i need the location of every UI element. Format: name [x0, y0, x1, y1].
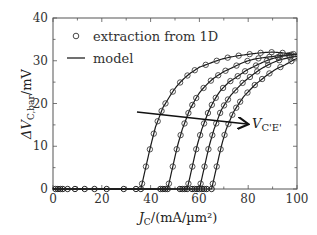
vce-label: VC'E'	[252, 116, 282, 133]
legend-label-model: model	[93, 51, 133, 66]
xtick-40: 40	[143, 192, 158, 206]
y-axis-title-unit: /mV	[19, 69, 34, 96]
x-axis-title-unit: /(mA/µm²)	[151, 210, 218, 225]
y-axis-title-main: ΔV	[19, 118, 34, 139]
xtick-80: 80	[240, 192, 255, 206]
ytick-0: 0	[40, 182, 48, 196]
legend: extraction from 1D model	[67, 29, 218, 66]
x-axis-title: JC/(mA/µm²)	[136, 210, 218, 227]
y-axis-title-sub: C,bar	[26, 95, 36, 121]
ytick-30: 30	[33, 54, 48, 68]
svg-text:ΔVC,bar/mV: ΔVC,bar/mV	[19, 69, 36, 140]
y-axis-title: ΔVC,bar/mV	[19, 69, 36, 140]
legend-circle-icon	[73, 33, 79, 39]
xtick-0: 0	[49, 192, 57, 206]
ytick-40: 40	[33, 11, 48, 25]
ytick-10: 10	[33, 139, 48, 153]
legend-label-extraction: extraction from 1D	[93, 29, 218, 44]
xtick-60: 60	[191, 192, 206, 206]
xtick-100: 100	[286, 192, 309, 206]
xtick-20: 20	[94, 192, 109, 206]
vce-label-sub: C'E'	[261, 122, 281, 133]
chart: 40 30 20 10 0 0 20 40 60 80 100 ΔVC,bar/…	[0, 0, 317, 235]
